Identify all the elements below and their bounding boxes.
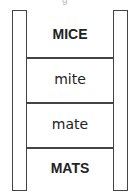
ladder-rung-1: [26, 57, 114, 59]
ladder-word-step-1: mite: [27, 71, 113, 87]
ladder-word-start: MICE: [27, 26, 113, 42]
ladder-word-end: MATS: [27, 160, 113, 176]
ladder-rung-2: [26, 102, 114, 104]
ladder-right-rail: [113, 10, 128, 191]
ladder-rung-3: [26, 147, 114, 149]
cropped-text: g: [62, 0, 68, 5]
ladder-word-step-2: mate: [27, 116, 113, 132]
ladder-left-rail: [12, 10, 27, 191]
